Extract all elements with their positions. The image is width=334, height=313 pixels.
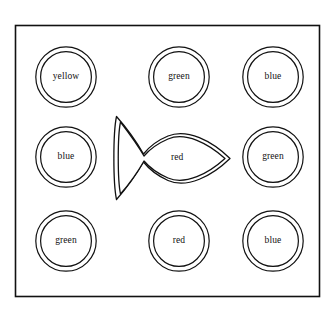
shape-cell-r3c1[interactable]: green <box>35 210 97 272</box>
double-circle-icon <box>242 210 304 272</box>
shape-cell-r2c2-fish[interactable]: red <box>112 113 234 203</box>
figure-canvas: yellow green blue blue <box>0 0 334 313</box>
double-circle-icon <box>35 46 97 108</box>
double-circle-icon <box>148 210 210 272</box>
double-circle-icon <box>242 126 304 188</box>
shape-cell-r1c2[interactable]: green <box>148 46 210 108</box>
shape-cell-r1c1[interactable]: yellow <box>35 46 97 108</box>
shape-cell-r2c1[interactable]: blue <box>35 126 97 188</box>
shape-cell-r3c3[interactable]: blue <box>242 210 304 272</box>
shape-cell-r3c2[interactable]: red <box>148 210 210 272</box>
shape-cell-r2c3[interactable]: green <box>242 126 304 188</box>
shapes-layer: yellow green blue blue <box>0 0 334 313</box>
double-circle-icon <box>148 46 210 108</box>
fish-icon <box>112 113 234 203</box>
double-circle-icon <box>35 210 97 272</box>
double-circle-icon <box>242 46 304 108</box>
double-circle-icon <box>35 126 97 188</box>
shape-cell-r1c3[interactable]: blue <box>242 46 304 108</box>
fish-inner-outline <box>118 122 225 194</box>
